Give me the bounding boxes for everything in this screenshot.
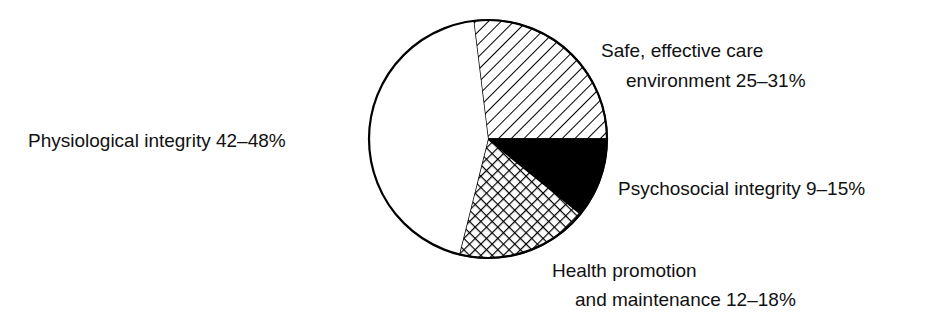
label-health-line1: Health promotion [552,261,697,280]
label-physiological: Physiological integrity 42–48% [28,131,286,150]
label-health-line2: and maintenance 12–18% [575,290,796,309]
label-safe-care-line2: environment 25–31% [626,71,806,90]
label-safe-care-line1: Safe, effective care [601,41,763,60]
label-psychosocial: Psychosocial integrity 9–15% [618,179,865,198]
pie-slice-0 [473,20,607,139]
pie-chart [0,0,944,331]
